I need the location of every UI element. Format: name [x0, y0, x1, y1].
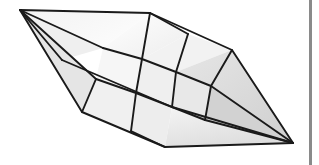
- page-margin-rule: [309, 0, 312, 165]
- wireframe-mesh-svg: [0, 0, 319, 165]
- figure-root: [0, 0, 319, 165]
